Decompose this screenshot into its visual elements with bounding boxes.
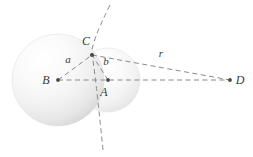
label-segment-b: b: [103, 55, 109, 67]
point-marker-A: [106, 78, 110, 82]
label-point-B: B: [42, 73, 50, 87]
label-segment-r: r: [159, 47, 164, 59]
label-point-A: A: [99, 85, 108, 99]
label-segment-a: a: [65, 53, 71, 65]
figure-canvas: B A C D a b r: [0, 0, 253, 157]
point-marker-B: [56, 78, 60, 82]
geometry-figure: B A C D a b r: [0, 0, 253, 157]
label-point-C: C: [82, 34, 91, 48]
point-marker-D: [228, 78, 232, 82]
point-marker-C: [90, 53, 94, 57]
label-point-D: D: [235, 73, 245, 87]
